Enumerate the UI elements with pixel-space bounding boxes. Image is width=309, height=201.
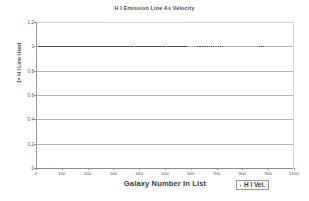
gridline-y-0.4 (37, 119, 293, 120)
x-tick-mark (165, 168, 166, 170)
y-tick-label-0: 0 (8, 166, 34, 171)
y-tick-label-0.6: 0.6 (8, 93, 34, 98)
y-tick-label-0.8: 0.8 (8, 68, 34, 73)
x-tick-mark (88, 168, 89, 170)
x-tick-mark (36, 168, 37, 170)
chart-title: H I Emission Line As Velocity (0, 5, 309, 11)
x-tick-label-600: 600 (187, 171, 194, 176)
x-tick-label-200: 200 (84, 171, 91, 176)
y-tick-label-1.2: 1.2 (8, 20, 34, 25)
y-tick-label-1: 1 (8, 44, 34, 49)
x-tick-mark (217, 168, 218, 170)
x-tick-label-1000: 1000 (289, 171, 299, 176)
x-tick-mark (242, 168, 243, 170)
gridline-y-0.6 (37, 95, 293, 96)
x-tick-mark (139, 168, 140, 170)
y-tick-label-0.2: 0.2 (8, 141, 34, 146)
x-tick-label-500: 500 (161, 171, 168, 176)
x-tick-label-800: 800 (239, 171, 246, 176)
x-tick-label-100: 100 (58, 171, 65, 176)
gridline-y-1.2 (37, 22, 293, 23)
x-tick-label-700: 700 (213, 171, 220, 176)
chart-container: H I Emission Line As Velocity 1= H I Lin… (0, 0, 309, 201)
x-tick-label-900: 900 (265, 171, 272, 176)
gridline-y-0.2 (37, 144, 293, 145)
x-tick-label-400: 400 (136, 171, 143, 176)
chart-legend[interactable]: H I Vel. (236, 180, 269, 190)
x-tick-mark (268, 168, 269, 170)
y-axis-ticks: 00.20.40.60.811.2 (4, 22, 34, 168)
x-tick-mark (113, 168, 114, 170)
x-tick-mark (62, 168, 63, 170)
x-tick-mark (191, 168, 192, 170)
legend-label-hi-vel: H I Vel. (244, 182, 265, 188)
gridline-y-1 (37, 46, 293, 47)
plot-area (36, 22, 294, 168)
x-tick-mark (294, 168, 295, 170)
x-tick-label-0: 0 (35, 171, 37, 176)
x-tick-label-300: 300 (110, 171, 117, 176)
gridline-y-0.8 (37, 71, 293, 72)
legend-marker-icon (239, 184, 242, 187)
y-tick-label-0.4: 0.4 (8, 117, 34, 122)
